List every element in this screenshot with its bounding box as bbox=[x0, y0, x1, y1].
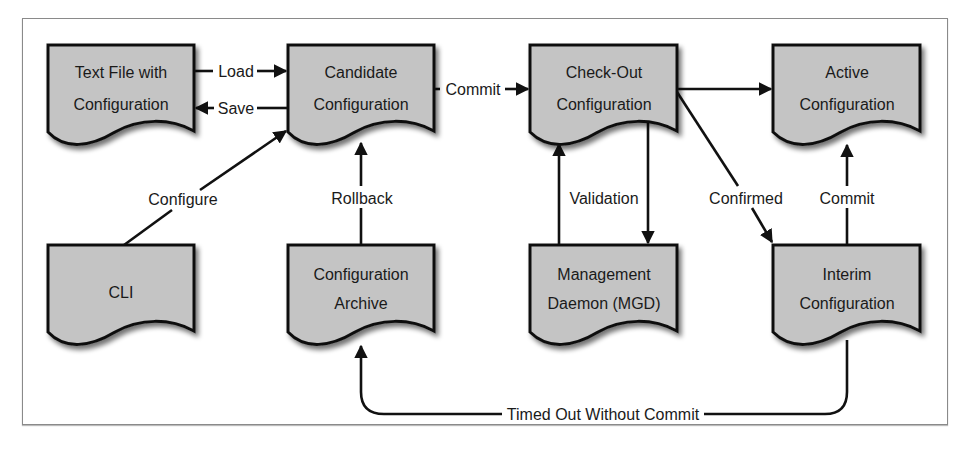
node-label-line1: Check-Out bbox=[566, 64, 643, 81]
node-active-configuration: Active Configuration bbox=[773, 45, 920, 144]
node-label-line1: Active bbox=[825, 64, 869, 81]
node-label-line2: Archive bbox=[334, 295, 387, 312]
edge-load: Load bbox=[194, 63, 286, 80]
node-label-line1: Text File with bbox=[75, 64, 167, 81]
edge-label-validation: Validation bbox=[569, 190, 638, 207]
edge-label-load: Load bbox=[218, 63, 254, 80]
node-label-line1: Interim bbox=[823, 266, 872, 283]
edge-timed-out: Timed Out Without Commit bbox=[361, 340, 847, 423]
edge-commit-candidate-to-checkout: Commit bbox=[434, 81, 528, 98]
node-candidate-configuration: Candidate Configuration bbox=[288, 45, 434, 144]
edge-label-commit-2: Commit bbox=[819, 190, 875, 207]
node-interim-configuration: Interim Configuration bbox=[773, 245, 920, 344]
edge-label-timed-out: Timed Out Without Commit bbox=[507, 406, 700, 423]
node-configuration-archive: Configuration Archive bbox=[288, 245, 434, 344]
edge-label-confirmed: Confirmed bbox=[709, 190, 783, 207]
node-label-line2: Daemon (MGD) bbox=[548, 295, 661, 312]
edge-confirmed: Confirmed bbox=[677, 92, 783, 242]
edge-label-commit: Commit bbox=[445, 81, 501, 98]
node-check-out-configuration: Check-Out Configuration bbox=[530, 45, 677, 144]
node-cli: CLI bbox=[48, 245, 194, 344]
node-label-line1: CLI bbox=[109, 284, 134, 301]
node-text-file-with-configuration: Text File with Configuration bbox=[48, 45, 194, 144]
edge-label-rollback: Rollback bbox=[331, 190, 393, 207]
flowchart: Load Save Commit Configure Rollback Vali… bbox=[0, 0, 971, 466]
node-label-line2: Configuration bbox=[556, 96, 651, 113]
edge-rollback: Rollback bbox=[331, 143, 393, 245]
node-label-line1: Configuration bbox=[313, 266, 408, 283]
node-label-line1: Candidate bbox=[325, 64, 398, 81]
node-label-line1: Management bbox=[557, 266, 651, 283]
node-label-line2: Configuration bbox=[799, 96, 894, 113]
edge-label-configure: Configure bbox=[148, 191, 217, 208]
node-label-line2: Configuration bbox=[799, 295, 894, 312]
edge-label-save: Save bbox=[218, 100, 255, 117]
node-label-line2: Configuration bbox=[73, 96, 168, 113]
node-management-daemon: Management Daemon (MGD) bbox=[530, 245, 677, 344]
edge-configure: Configure bbox=[124, 131, 286, 245]
node-label-line2: Configuration bbox=[313, 96, 408, 113]
edge-commit-interim-to-active: Commit bbox=[819, 145, 875, 245]
edge-save: Save bbox=[196, 100, 288, 117]
